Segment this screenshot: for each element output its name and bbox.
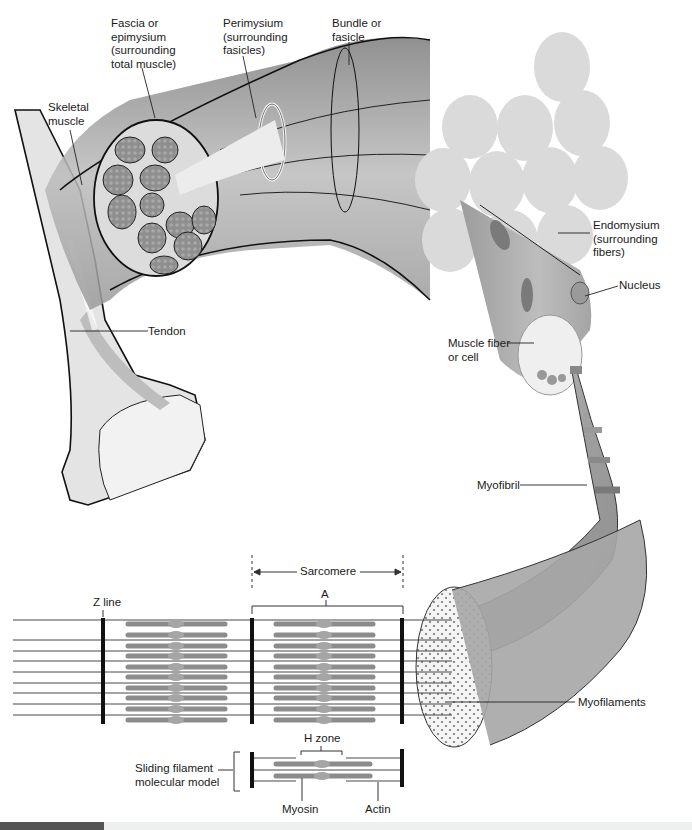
label-perimysium: Perimysium (surrounding fasicles)	[223, 17, 288, 58]
label-fascia: Fascia or epimysium (surrounding total m…	[111, 17, 176, 71]
label-endomysium: Endomysium (surrounding fibers)	[593, 219, 659, 260]
label-actin: Actin	[365, 803, 391, 817]
sarcomere-dimension	[103, 555, 403, 617]
label-muscle-fiber: Muscle fiber or cell	[448, 337, 510, 364]
label-skeletal-muscle: Skeletal muscle	[48, 101, 89, 128]
label-z-line: Z line	[93, 596, 121, 610]
footer-accent	[0, 822, 104, 830]
label-sarcomere: Sarcomere	[300, 565, 356, 579]
label-myofibril: Myofibril	[477, 479, 520, 493]
sarcomere-filaments	[13, 618, 452, 724]
label-tendon: Tendon	[148, 325, 186, 339]
label-sliding-filament-model: Sliding filament molecular model	[135, 762, 219, 789]
label-myosin: Myosin	[282, 803, 318, 817]
footer-bar	[0, 822, 692, 830]
label-h-zone: H zone	[304, 732, 340, 746]
sliding-filament-model	[218, 746, 404, 801]
label-bundle: Bundle or fasicle	[332, 17, 381, 44]
label-myofilaments: Myofilaments	[578, 696, 646, 710]
label-nucleus: Nucleus	[619, 279, 661, 293]
label-a-band: A	[321, 588, 329, 602]
